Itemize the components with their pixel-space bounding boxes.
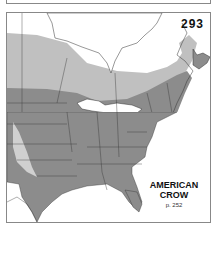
florida — [125, 190, 142, 212]
range-map-lower: AMERICAN CROW p. 252 — [6, 112, 211, 223]
top-frame-edge — [6, 0, 211, 4]
species-name-line1: AMERICAN — [144, 180, 204, 190]
species-legend: AMERICAN CROW p. 252 — [144, 180, 204, 208]
plate-number: 293 — [181, 17, 204, 31]
page-reference: p. 252 — [144, 202, 204, 208]
newfoundland — [193, 49, 210, 69]
range-map-container: 293 — [6, 12, 211, 114]
range-map-svg — [7, 13, 210, 113]
species-name-line2: CROW — [144, 190, 204, 200]
